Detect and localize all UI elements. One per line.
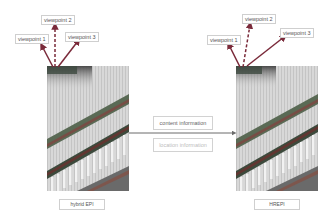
arrow-viewpoint-3 bbox=[247, 37, 284, 66]
hybrid-epi-caption: hybrid EPI bbox=[59, 199, 105, 210]
arrow-viewpoint-2 bbox=[243, 25, 250, 67]
left-viewpoint-2-label: viewpoint 2 bbox=[41, 15, 75, 25]
left-viewpoint-1-label: viewpoint 1 bbox=[15, 34, 49, 44]
arrow-viewpoint-3 bbox=[58, 41, 78, 67]
left-viewpoint-3-label: viewpoint 3 bbox=[65, 32, 99, 42]
arrow-viewpoint-1 bbox=[229, 45, 240, 67]
right-viewpoint-arrows bbox=[229, 25, 284, 67]
right-viewpoint-2-label: viewpoint 2 bbox=[242, 14, 276, 24]
hrepi-caption: HREPI bbox=[254, 199, 300, 210]
location-information-box: location information bbox=[153, 138, 213, 152]
right-viewpoint-3-label: viewpoint 3 bbox=[280, 28, 314, 38]
content-information-box: content information bbox=[153, 116, 213, 130]
arrow-viewpoint-1 bbox=[42, 46, 53, 67]
right-viewpoint-1-label: viewpoint 1 bbox=[207, 35, 241, 45]
